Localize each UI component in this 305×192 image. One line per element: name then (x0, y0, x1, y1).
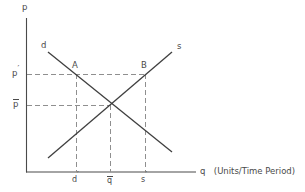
supply-curve-label: s (177, 42, 181, 51)
x-axis-label-symbol: q (200, 166, 205, 176)
point-b-label: B (141, 61, 147, 70)
x-tick-q-bar: q (107, 177, 112, 185)
x-tick-q-bar-base: q (107, 177, 112, 185)
y-tick-p-prime-mark: ′ (17, 65, 19, 74)
x-tick-s-prime: s′ (141, 176, 147, 184)
figure-canvas (0, 0, 305, 192)
supply-demand-figure: p q (Units/Time Period) d s A B p′ p d′ … (0, 0, 305, 192)
demand-curve-label: d (41, 41, 46, 50)
y-tick-p-prime: p′ (12, 69, 19, 78)
y-tick-p-bar-base: p (13, 100, 18, 109)
x-axis-label: q (Units/Time Period) (200, 167, 295, 176)
x-axis-label-units: (Units/Time Period) (214, 166, 295, 176)
x-tick-d-prime-mark: ′ (77, 171, 79, 180)
point-a-label: A (72, 61, 78, 70)
y-axis-label: p (22, 3, 27, 12)
y-tick-p-bar: p (13, 100, 18, 109)
supply-curve (48, 52, 172, 158)
x-tick-d-prime: d′ (72, 176, 79, 184)
x-tick-s-prime-mark: ′ (145, 171, 147, 180)
